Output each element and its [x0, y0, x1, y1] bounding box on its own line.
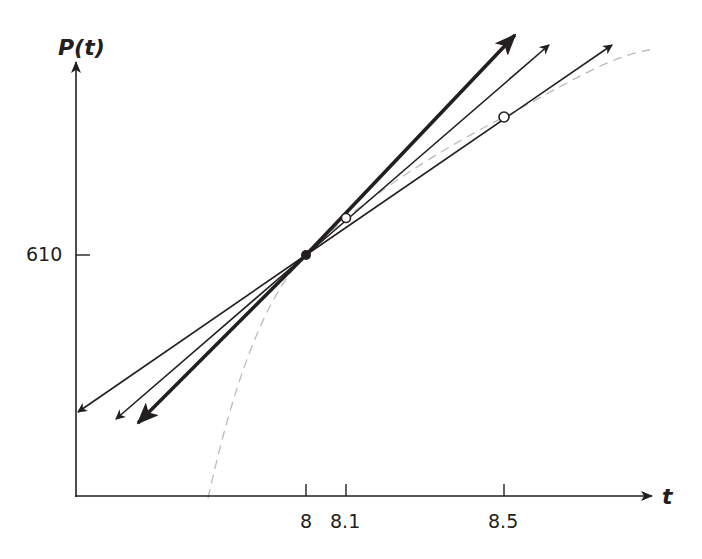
point-8-5 — [499, 112, 509, 122]
secant-line-8-5 — [306, 45, 612, 255]
secant-line-8-1 — [306, 45, 549, 255]
secant-line-8-1-left — [116, 255, 306, 419]
tangent-line — [306, 35, 515, 255]
x-tick-label-8: 8 — [300, 512, 312, 531]
x-tick-label-8-5: 8.5 — [488, 512, 518, 531]
point-8-1 — [342, 214, 351, 223]
tangent-line-left — [138, 255, 306, 423]
function-curve — [208, 50, 650, 498]
y-tick-label-610: 610 — [26, 245, 62, 264]
y-axis-label: P(t) — [58, 37, 105, 59]
point-8-610 — [301, 250, 311, 260]
secant-line-8-5-left — [78, 255, 306, 412]
diagram-canvas — [0, 0, 702, 559]
x-axis-label: t — [662, 486, 673, 508]
x-tick-label-8-1: 8.1 — [330, 512, 360, 531]
